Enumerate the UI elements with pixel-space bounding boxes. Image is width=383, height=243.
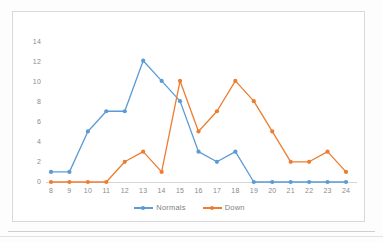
- data-point[interactable]: [141, 59, 145, 63]
- data-point[interactable]: [233, 79, 237, 83]
- data-point[interactable]: [141, 150, 145, 154]
- data-point[interactable]: [215, 109, 219, 113]
- data-point[interactable]: [325, 180, 329, 184]
- x-tick-label: 14: [153, 187, 171, 194]
- page-divider-secondary: [0, 236, 383, 237]
- x-tick-label: 10: [79, 187, 97, 194]
- data-point[interactable]: [123, 109, 127, 113]
- x-tick-label: 22: [300, 187, 318, 194]
- data-point[interactable]: [252, 180, 256, 184]
- data-point[interactable]: [325, 150, 329, 154]
- data-point[interactable]: [178, 79, 182, 83]
- legend-item-normals[interactable]: Normals: [134, 203, 185, 212]
- data-point[interactable]: [67, 180, 71, 184]
- data-point[interactable]: [67, 170, 71, 174]
- legend-label-normals: Normals: [156, 203, 185, 212]
- legend-item-down[interactable]: Down: [203, 203, 245, 212]
- x-tick-label: 9: [60, 187, 78, 194]
- data-point[interactable]: [270, 180, 274, 184]
- data-point[interactable]: [252, 99, 256, 103]
- data-point[interactable]: [104, 180, 108, 184]
- data-point[interactable]: [104, 109, 108, 113]
- x-tick-label: 8: [42, 187, 60, 194]
- legend-marker-icon: [210, 206, 214, 210]
- data-point[interactable]: [196, 129, 200, 133]
- data-point[interactable]: [307, 160, 311, 164]
- legend-label-down: Down: [225, 203, 245, 212]
- data-point[interactable]: [344, 180, 348, 184]
- series-line-normals: [51, 61, 346, 182]
- data-point[interactable]: [86, 129, 90, 133]
- data-point[interactable]: [86, 180, 90, 184]
- data-point[interactable]: [49, 180, 53, 184]
- legend-marker-icon: [141, 206, 145, 210]
- data-point[interactable]: [160, 170, 164, 174]
- chart-container: 14 12 10 8 6 4 2 0 8 9 10 11 12 13 14 15…: [12, 11, 365, 222]
- data-point[interactable]: [270, 129, 274, 133]
- x-tick-label: 19: [245, 187, 263, 194]
- x-tick-label: 15: [171, 187, 189, 194]
- x-tick-label: 12: [116, 187, 134, 194]
- x-tick-label: 20: [263, 187, 281, 194]
- x-tick-label: 21: [282, 187, 300, 194]
- data-point[interactable]: [123, 160, 127, 164]
- data-point[interactable]: [160, 79, 164, 83]
- data-point[interactable]: [289, 160, 293, 164]
- x-tick-label: 18: [226, 187, 244, 194]
- data-point[interactable]: [307, 180, 311, 184]
- x-tick-label: 11: [97, 187, 115, 194]
- chart-legend: Normals Down: [13, 203, 366, 212]
- x-tick-label: 24: [337, 187, 355, 194]
- data-point[interactable]: [233, 150, 237, 154]
- scanned-page: 14 12 10 8 6 4 2 0 8 9 10 11 12 13 14 15…: [0, 0, 383, 243]
- data-point[interactable]: [215, 160, 219, 164]
- data-point[interactable]: [196, 150, 200, 154]
- plot-area: 14 12 10 8 6 4 2 0 8 9 10 11 12 13 14 15…: [13, 12, 366, 223]
- x-tick-label: 13: [134, 187, 152, 194]
- data-point[interactable]: [49, 170, 53, 174]
- legend-swatch-normals: [134, 203, 153, 212]
- legend-swatch-down: [203, 203, 222, 212]
- x-tick-label: 16: [190, 187, 208, 194]
- x-tick-label: 23: [319, 187, 337, 194]
- data-point[interactable]: [289, 180, 293, 184]
- data-point[interactable]: [178, 99, 182, 103]
- page-divider: [8, 231, 375, 232]
- data-point[interactable]: [344, 170, 348, 174]
- x-tick-label: 17: [208, 187, 226, 194]
